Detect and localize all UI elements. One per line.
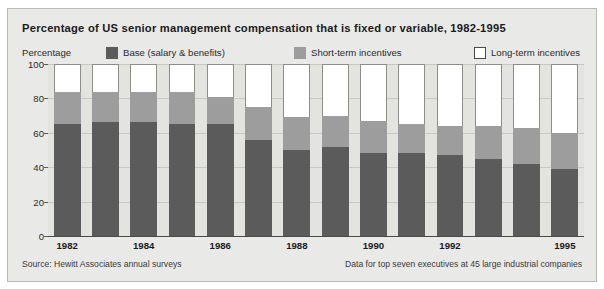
legend-item-base: Base (salary & benefits) — [106, 46, 225, 60]
y-axis-tick-label: 60 — [33, 127, 44, 138]
bar-segment — [513, 164, 540, 236]
bar-segment — [322, 64, 349, 116]
gridline — [48, 202, 584, 203]
gridline — [48, 133, 584, 134]
legend-item-short-term: Short-term incentives — [294, 46, 402, 60]
bar-segment — [130, 122, 157, 236]
chart-title: Percentage of US senior management compe… — [22, 22, 506, 34]
y-axis-tick — [44, 236, 48, 237]
gridline — [48, 98, 584, 99]
y-axis-tick — [44, 167, 48, 168]
y-axis-tick — [44, 133, 48, 134]
bar-segment — [169, 64, 196, 92]
bar-column — [245, 64, 272, 236]
bar-segment — [475, 126, 502, 159]
bar-segment — [283, 64, 310, 117]
bar-column — [322, 64, 349, 236]
plot-area-wrapper: 020406080100 198219841986198819901992199… — [22, 64, 584, 254]
bar-column — [283, 64, 310, 236]
bar-segment — [360, 121, 387, 154]
legend-swatch-long-term-icon — [474, 47, 486, 59]
y-axis-labels: 020406080100 — [22, 64, 44, 236]
y-axis-tick — [44, 64, 48, 65]
x-axis-tick-label: 1988 — [286, 240, 307, 251]
x-axis-tick-label: 1982 — [56, 240, 77, 251]
bar-column — [360, 64, 387, 236]
bar-segment — [437, 126, 464, 155]
bar-segment — [245, 107, 272, 140]
bar-segment — [245, 140, 272, 236]
bar-segment — [207, 64, 234, 97]
bar-segment — [322, 116, 349, 147]
gridline — [48, 167, 584, 168]
bar-segment — [130, 92, 157, 123]
bar-segment — [360, 64, 387, 121]
bar-segment — [322, 147, 349, 236]
bar-segment — [551, 169, 578, 236]
y-axis-tick — [44, 202, 48, 203]
gridline — [48, 64, 584, 65]
bar-segment — [54, 92, 81, 125]
bar-segment — [245, 64, 272, 107]
bar-segment — [437, 155, 464, 236]
bar-segment — [92, 122, 119, 236]
x-axis-labels: 1982198419861988199019921995 — [48, 240, 584, 254]
chart-data-note: Data for top seven executives at 45 larg… — [345, 259, 582, 269]
bar-segment — [207, 97, 234, 125]
legend-label-long-term: Long-term incentives — [491, 47, 580, 59]
bar-column — [437, 64, 464, 236]
chart-source-note: Source: Hewitt Associates annual surveys — [22, 259, 182, 269]
bar-segment — [169, 124, 196, 236]
chart-figure: Percentage of US senior management compe… — [0, 0, 604, 289]
bar-column — [551, 64, 578, 236]
bar-segment — [169, 92, 196, 125]
bar-segment — [398, 153, 425, 236]
bar-column — [207, 64, 234, 236]
y-axis-tick — [44, 98, 48, 99]
y-axis-tick-label: 40 — [33, 162, 44, 173]
bar-segment — [437, 64, 464, 126]
legend-swatch-short-term-icon — [294, 47, 306, 59]
x-axis-tick-label: 1986 — [210, 240, 231, 251]
bar-column — [130, 64, 157, 236]
x-axis-tick-label: 1984 — [133, 240, 154, 251]
y-axis-title: Percentage — [22, 47, 71, 58]
bar-segment — [513, 64, 540, 128]
bar-segment — [398, 124, 425, 153]
plot-area — [48, 64, 584, 237]
bar-segment — [207, 124, 234, 236]
bar-column — [169, 64, 196, 236]
y-axis-tick-label: 80 — [33, 93, 44, 104]
bar-segment — [360, 153, 387, 236]
y-axis-tick-label: 100 — [28, 59, 44, 70]
x-axis-tick-label: 1995 — [554, 240, 575, 251]
legend-label-short-term: Short-term incentives — [311, 47, 402, 59]
legend-swatch-base-icon — [106, 47, 118, 59]
bar-segment — [475, 159, 502, 236]
legend-label-base: Base (salary & benefits) — [123, 47, 225, 59]
bar-segment — [513, 128, 540, 164]
chart-legend: Percentage Base (salary & benefits) Shor… — [22, 46, 582, 62]
bar-segment — [130, 64, 157, 92]
bar-segment — [92, 64, 119, 92]
x-axis-tick-label: 1992 — [439, 240, 460, 251]
bar-column — [54, 64, 81, 236]
legend-item-long-term: Long-term incentives — [474, 46, 580, 60]
bar-column — [513, 64, 540, 236]
x-axis-tick-label: 1990 — [363, 240, 384, 251]
bar-segment — [92, 92, 119, 123]
bar-segment — [551, 133, 578, 169]
bar-segment — [551, 64, 578, 133]
bar-segment — [54, 64, 81, 92]
bar-segment — [54, 124, 81, 236]
bar-segment — [475, 64, 502, 126]
bar-column — [475, 64, 502, 236]
bar-segment — [283, 150, 310, 236]
bar-segment — [283, 117, 310, 150]
bar-segment — [398, 64, 425, 124]
y-axis-tick-label: 20 — [33, 196, 44, 207]
bar-column — [398, 64, 425, 236]
bar-column — [92, 64, 119, 236]
